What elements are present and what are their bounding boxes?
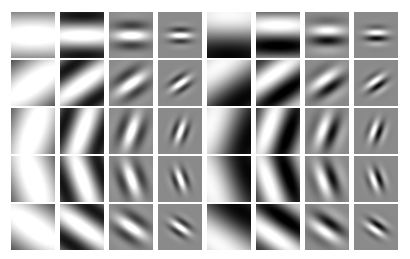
- gabor-kernel-image: [109, 108, 153, 154]
- gabor-kernel-image: [354, 60, 398, 106]
- gabor-kernel-cell: [256, 204, 300, 250]
- gabor-kernel-cell: [60, 108, 104, 154]
- gabor-kernel-cell: [305, 60, 349, 106]
- gabor-kernel-image: [354, 156, 398, 202]
- gabor-kernel-image: [256, 60, 300, 106]
- gabor-kernel-image: [256, 204, 300, 250]
- gabor-kernel-cell: [158, 204, 202, 250]
- gabor-kernel-image: [207, 60, 251, 106]
- gabor-kernel-image: [158, 156, 202, 202]
- gabor-kernel-cell: [305, 108, 349, 154]
- gabor-kernel-cell: [207, 12, 251, 58]
- gabor-kernel-cell: [109, 204, 153, 250]
- gabor-kernel-image: [354, 108, 398, 154]
- gabor-kernel-image: [305, 108, 349, 154]
- gabor-kernel-image: [60, 204, 104, 250]
- gabor-kernel-cell: [256, 156, 300, 202]
- gabor-kernel-cell: [305, 204, 349, 250]
- gabor-kernel-image: [60, 12, 104, 58]
- gabor-kernel-cell: [354, 12, 398, 58]
- gabor-kernel-image: [11, 156, 55, 202]
- gabor-kernel-cell: [158, 60, 202, 106]
- gabor-kernel-cell: [354, 156, 398, 202]
- gabor-kernel-image: [207, 204, 251, 250]
- gabor-kernel-cell: [256, 12, 300, 58]
- gabor-kernel-cell: [158, 12, 202, 58]
- gabor-kernel-cell: [11, 12, 55, 58]
- gabor-kernel-image: [354, 12, 398, 58]
- gabor-kernel-image: [109, 204, 153, 250]
- gabor-kernel-image: [256, 108, 300, 154]
- gabor-kernel-image: [158, 204, 202, 250]
- gabor-kernel-image: [11, 60, 55, 106]
- gabor-kernel-cell: [207, 156, 251, 202]
- gabor-kernel-image: [305, 60, 349, 106]
- gabor-kernel-cell: [60, 156, 104, 202]
- gabor-kernel-cell: [60, 12, 104, 58]
- gabor-kernel-cell: [158, 108, 202, 154]
- gabor-kernel-cell: [109, 108, 153, 154]
- gabor-kernel-image: [11, 108, 55, 154]
- gabor-kernel-image: [60, 60, 104, 106]
- gabor-kernel-image: [158, 60, 202, 106]
- gabor-kernel-cell: [305, 12, 349, 58]
- gabor-kernel-cell: [207, 60, 251, 106]
- gabor-kernel-cell: [354, 204, 398, 250]
- gabor-kernel-cell: [60, 60, 104, 106]
- gabor-kernel-cell: [11, 204, 55, 250]
- gabor-kernel-image: [305, 156, 349, 202]
- gabor-kernel-cell: [11, 60, 55, 106]
- gabor-filter-grid: [11, 12, 403, 249]
- gabor-kernel-image: [305, 12, 349, 58]
- gabor-kernel-cell: [256, 60, 300, 106]
- gabor-kernel-image: [256, 156, 300, 202]
- gabor-kernel-cell: [109, 12, 153, 58]
- gabor-kernel-image: [207, 12, 251, 58]
- gabor-kernel-image: [207, 108, 251, 154]
- gabor-kernel-image: [11, 204, 55, 250]
- gabor-kernel-image: [11, 12, 55, 58]
- gabor-kernel-image: [109, 12, 153, 58]
- gabor-kernel-image: [158, 108, 202, 154]
- gabor-kernel-image: [158, 12, 202, 58]
- gabor-kernel-image: [109, 60, 153, 106]
- gabor-kernel-cell: [256, 108, 300, 154]
- gabor-kernel-cell: [305, 156, 349, 202]
- gabor-kernel-cell: [354, 108, 398, 154]
- gabor-kernel-image: [256, 12, 300, 58]
- gabor-kernel-image: [60, 156, 104, 202]
- gabor-kernel-image: [354, 204, 398, 250]
- gabor-kernel-image: [60, 108, 104, 154]
- gabor-kernel-cell: [109, 60, 153, 106]
- gabor-kernel-cell: [109, 156, 153, 202]
- gabor-kernel-image: [109, 156, 153, 202]
- gabor-kernel-cell: [11, 156, 55, 202]
- gabor-kernel-cell: [158, 156, 202, 202]
- gabor-kernel-cell: [354, 60, 398, 106]
- gabor-kernel-cell: [11, 108, 55, 154]
- gabor-kernel-image: [305, 204, 349, 250]
- gabor-kernel-cell: [207, 108, 251, 154]
- gabor-kernel-cell: [60, 204, 104, 250]
- gabor-kernel-cell: [207, 204, 251, 250]
- gabor-kernel-image: [207, 156, 251, 202]
